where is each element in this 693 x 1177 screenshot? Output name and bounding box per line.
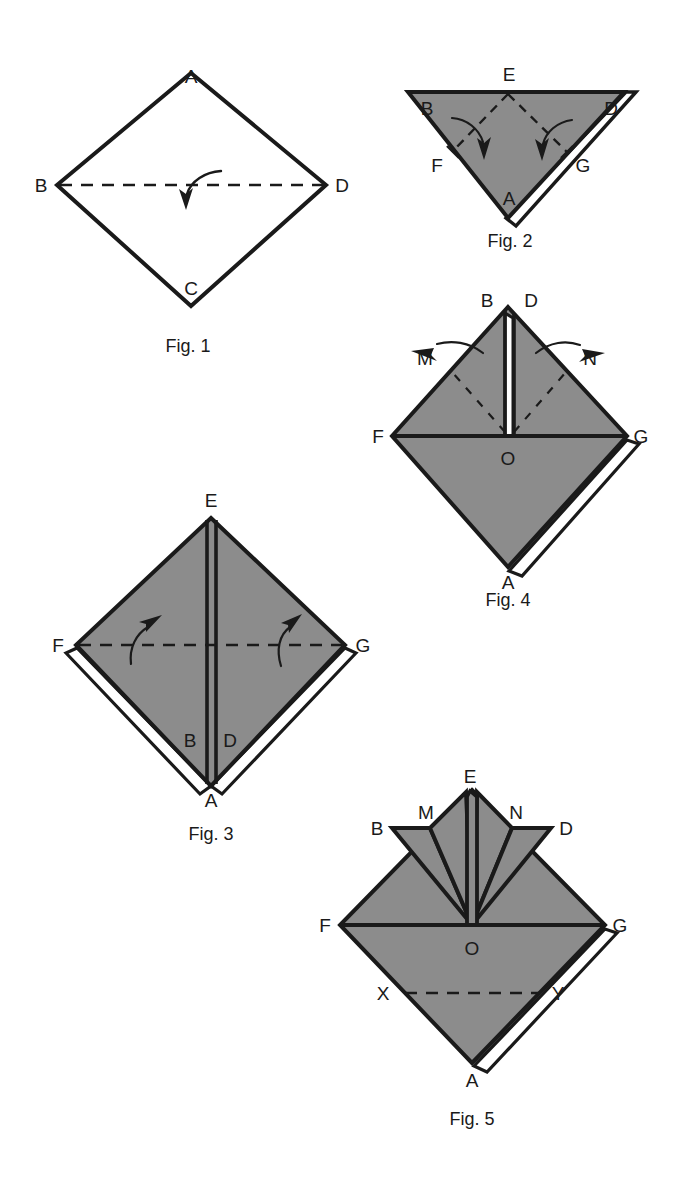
fig4-vertex-label-n: N (583, 349, 597, 368)
fig1-vertex-label-b: B (35, 176, 48, 195)
fig1-vertex-label-a: A (185, 67, 198, 86)
fig4-caption: Fig. 4 (485, 591, 530, 609)
fig3-vertex-label-b: B (184, 731, 197, 750)
fig1-caption: Fig. 1 (165, 337, 210, 355)
fig4-vertex-label-d: D (524, 291, 538, 310)
fig5-vertex-label-a: A (466, 1071, 479, 1090)
fig3-vertex-label-e: E (205, 491, 218, 510)
fig5-vertex-label-o: O (465, 939, 480, 958)
fig1-vertex-label-d: D (335, 176, 349, 195)
fig5-vertex-label-f: F (319, 916, 331, 935)
fig2-vertex-label-f: F (431, 156, 443, 175)
fig5-vertex-label-x: X (377, 984, 390, 1003)
fig5-vertex-label-e: E (464, 767, 477, 786)
fig4-vertex-label-a: A (502, 573, 515, 592)
fig4-vertex-label-m: M (417, 349, 433, 368)
fig2-vertex-label-a: A (503, 189, 516, 208)
fig4-vertex-label-b: B (481, 291, 494, 310)
fig5-vertex-label-n: N (509, 803, 523, 822)
fig3-vertex-label-a: A (205, 791, 218, 810)
fig3-vertex-label-f: F (52, 636, 64, 655)
fig5-vertex-label-m: M (418, 803, 434, 822)
fig4-vertex-label-o: O (501, 449, 516, 468)
fig2-vertex-label-g: G (576, 156, 591, 175)
fig3-paper-diamond (76, 518, 345, 786)
fig2-vertex-label-d: D (604, 99, 618, 118)
fig4-vertex-label-f: F (372, 427, 384, 446)
fig3-vertex-label-g: G (356, 636, 371, 655)
fig4-vertex-label-g: G (634, 427, 649, 446)
fig3-caption: Fig. 3 (188, 825, 233, 843)
fig2-caption: Fig. 2 (487, 232, 532, 250)
fig5-vertex-label-y: Y (552, 984, 565, 1003)
fig5-caption: Fig. 5 (449, 1110, 494, 1128)
origami-instruction-sheet: A B C D Fig. 1 B E D F G A Fig. 2 B D F … (0, 0, 693, 1177)
fig5-vertex-label-b: B (371, 819, 384, 838)
fig1-vertex-label-c: C (184, 279, 198, 298)
fig3-vertex-label-d: D (223, 731, 237, 750)
fig5-vertex-label-g: G (613, 916, 628, 935)
figure-3-drawing (66, 518, 356, 794)
fig2-vertex-label-b: B (421, 99, 434, 118)
fig5-vertex-label-d: D (559, 819, 573, 838)
fig2-vertex-label-e: E (503, 65, 516, 84)
figure-1-drawing (57, 73, 326, 306)
